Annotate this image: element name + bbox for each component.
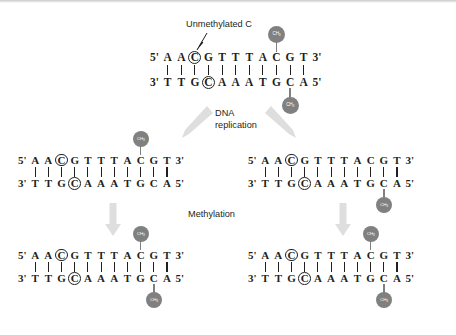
bond-slot — [338, 167, 351, 177]
methylation-arrow-right — [334, 203, 352, 237]
base-cell: T — [324, 153, 337, 167]
top-five-prime-end: 5' — [16, 154, 29, 166]
base-letter: T — [84, 249, 91, 261]
methyl-stem — [276, 42, 277, 52]
base-letter: G — [70, 249, 79, 261]
top-three-prime-end: 3' — [404, 249, 417, 261]
bond-slot — [160, 262, 173, 272]
base-cell: C — [364, 153, 377, 167]
bond-slot — [390, 262, 403, 272]
bond-slot — [324, 262, 337, 272]
base-cell: A — [351, 153, 364, 167]
top-strand: 5'AACGTTTACGT3' — [246, 248, 416, 262]
hydrogen-bond — [48, 262, 49, 272]
bond-slot — [390, 167, 403, 177]
base-cell: A — [256, 50, 270, 64]
hydrogen-bond — [235, 65, 236, 75]
base-cell: A — [160, 177, 173, 191]
bond-slot — [215, 65, 229, 75]
methyl-stem — [140, 241, 141, 250]
base-cell: G — [298, 153, 311, 167]
top-strand: 5'AACGTTTACGT3' — [246, 153, 416, 167]
base-cell: T — [311, 153, 324, 167]
top-five-prime-end: 5' — [148, 51, 161, 63]
base-letter: A — [177, 51, 185, 63]
hydrogen-bond — [101, 262, 102, 272]
bond-slot — [160, 167, 173, 177]
base-letter: T — [300, 51, 308, 63]
base-cell: A — [390, 177, 403, 191]
top-strand-bases: AACGTTTACGT — [161, 50, 311, 65]
base-cell: G — [285, 177, 298, 191]
methyl-stem — [383, 189, 384, 198]
base-letter: G — [57, 272, 66, 284]
base-letter: A — [84, 177, 92, 189]
top-strand: 5'AACGTTTACGT3' — [148, 50, 323, 65]
base-cell: C — [147, 177, 160, 191]
hydrogen-bond — [304, 262, 305, 272]
base-cell: G — [377, 248, 390, 262]
bottom-three-prime-end: 3' — [246, 272, 259, 284]
base-cell: T — [272, 177, 285, 191]
bond-slot — [121, 167, 134, 177]
circled-cytosine: C — [55, 154, 68, 167]
base-cell: C — [68, 272, 81, 286]
circled-cytosine: C — [68, 272, 81, 285]
hydrogen-bond — [331, 167, 332, 177]
bond-slot — [311, 167, 324, 177]
base-cell: G — [147, 153, 160, 167]
base-letter: G — [190, 76, 199, 88]
bond-slot — [68, 262, 81, 272]
base-letter: T — [261, 177, 268, 189]
bottom-five-prime-end: 5' — [404, 177, 417, 189]
bond-slot — [175, 65, 189, 75]
base-letter: A — [97, 272, 105, 284]
top-five-prime-end: 5' — [246, 154, 259, 166]
hydrogen-bond-row — [148, 65, 323, 75]
base-letter: A — [44, 249, 52, 261]
base-cell: A — [108, 177, 121, 191]
bond-slot — [29, 262, 42, 272]
base-letter: A — [110, 177, 118, 189]
base-cell: G — [55, 177, 68, 191]
base-cell: A — [229, 75, 243, 89]
base-cell: A — [175, 50, 189, 64]
base-cell: T — [272, 272, 285, 286]
hydrogen-bond — [87, 167, 88, 177]
base-letter: T — [31, 177, 38, 189]
methylation-arrow-left — [104, 203, 122, 237]
base-cell: G — [147, 248, 160, 262]
base-cell: T — [338, 248, 351, 262]
bond-slot — [42, 167, 55, 177]
methyl-group-label: CH3 — [380, 203, 388, 207]
methyl-group-badge: CH3 — [146, 292, 162, 308]
base-letter: C — [380, 272, 388, 284]
hydrogen-bond — [290, 65, 291, 75]
base-cell: T — [108, 153, 121, 167]
base-cell: A — [242, 75, 256, 89]
base-cell: T — [42, 272, 55, 286]
methyl-stem — [370, 241, 371, 250]
base-cell: A — [94, 177, 107, 191]
bond-slot — [311, 262, 324, 272]
bond-slot — [338, 262, 351, 272]
bond-slot — [351, 167, 364, 177]
circled-cytosine: C — [285, 249, 298, 262]
base-letter: G — [287, 177, 296, 189]
bond-slot — [121, 262, 134, 272]
base-cell: C — [364, 248, 377, 262]
base-letter: T — [341, 249, 348, 261]
base-letter: T — [97, 249, 104, 261]
base-letter: A — [340, 272, 348, 284]
bottom-strand: 3'TTGCAAATGCA5' — [148, 75, 323, 90]
base-cell: C — [270, 50, 284, 64]
bond-slot — [134, 167, 147, 177]
base-letter: T — [393, 154, 400, 166]
hydrogen-bond — [317, 262, 318, 272]
bond-slot — [68, 167, 81, 177]
bond-slot — [147, 167, 160, 177]
base-letter: T — [245, 51, 253, 63]
bond-slot — [147, 262, 160, 272]
base-letter: C — [137, 249, 145, 261]
methyl-group-badge: CH3 — [133, 226, 149, 242]
